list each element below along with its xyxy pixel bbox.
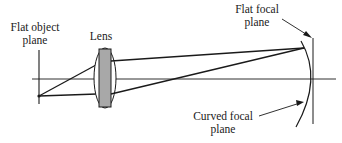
ray-lower-in	[39, 94, 97, 96]
lens	[94, 48, 116, 108]
ray-upper-in	[39, 65, 96, 96]
flat-focal-label-2: plane	[245, 16, 270, 29]
lens-label: Lens	[90, 30, 113, 42]
curved-focal-leader	[259, 100, 304, 116]
flat-focal-label-1: Flat focal	[235, 3, 279, 15]
curved-focal-label-1: Curved focal	[193, 110, 253, 122]
object-plane-label-2: plane	[23, 34, 48, 47]
flat-focal-leader	[282, 19, 312, 38]
curved-focal-label-2: plane	[211, 123, 236, 136]
object-plane-label-1: Flat object	[11, 21, 61, 34]
curved-focal-plane	[296, 41, 311, 127]
field-curvature-diagram: Flat object plane Lens Flat focal plane …	[0, 0, 342, 143]
